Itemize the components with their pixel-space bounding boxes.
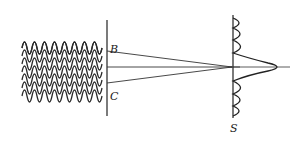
ray-lines [107, 51, 240, 83]
slit-label-b: B [109, 43, 118, 56]
slit-label-c: C [110, 90, 119, 103]
incident-wavefronts [22, 42, 102, 102]
double-slit-diagram: B C S [0, 0, 305, 145]
screen-label-s: S [230, 122, 238, 135]
